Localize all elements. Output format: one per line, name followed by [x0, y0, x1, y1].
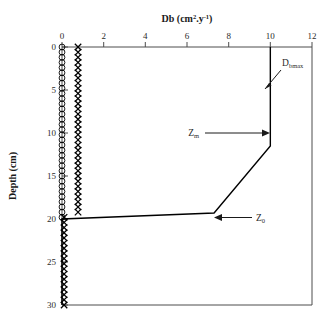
x-tick-label: 8	[226, 31, 231, 41]
y-tick-label: 0	[52, 42, 57, 52]
y-tick-label: 15	[47, 171, 57, 181]
bioturbation-depth-chart: Db (cm2.y-1) Depth (cm) 0 2 4 6 8 10 12	[0, 0, 330, 322]
y-tick-label: 5	[52, 85, 57, 95]
x-tick-label: 10	[266, 31, 276, 41]
x-tick-label: 4	[143, 31, 148, 41]
x-tick-label: 12	[308, 31, 317, 41]
open-circle-marker-series	[59, 44, 65, 220]
x-tick-label: 2	[101, 31, 106, 41]
x-tick-label: 6	[185, 31, 190, 41]
y-axis-title: Depth (cm)	[7, 152, 19, 200]
x-axis-title-main: Db (cm	[162, 13, 194, 25]
chart-background	[0, 0, 330, 322]
y-tick-label: 25	[47, 257, 57, 267]
y-tick-label: 30	[47, 300, 57, 310]
x-tick-label: 0	[60, 31, 65, 41]
y-tick-label: 10	[47, 128, 57, 138]
y-tick-label: 20	[47, 214, 57, 224]
